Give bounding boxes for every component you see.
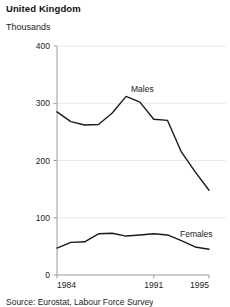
x-axis-ticks: 198419911995 (57, 275, 209, 290)
y-tick-label: 300 (36, 98, 50, 108)
series-label-males: Males (131, 84, 154, 94)
y-axis-ticks: 0100200300400 (36, 41, 57, 280)
chart-container: United Kingdom Thousands 0100200300400 1… (0, 0, 230, 307)
y-tick-label: 0 (45, 270, 50, 280)
line-chart-plot: 0100200300400 198419911995 MalesFemales (0, 0, 230, 307)
x-tick-label: 1991 (144, 280, 163, 290)
y-tick-label: 100 (36, 213, 50, 223)
data-series-lines (57, 96, 209, 249)
x-tick-label: 1995 (190, 280, 209, 290)
source-note: Source: Eurostat, Labour Force Survey (6, 297, 153, 307)
gridlines (57, 46, 226, 218)
series-line-males (57, 96, 209, 190)
x-tick-label: 1984 (57, 280, 76, 290)
y-tick-label: 400 (36, 41, 50, 51)
y-tick-label: 200 (36, 156, 50, 166)
series-label-females: Females (180, 229, 213, 239)
